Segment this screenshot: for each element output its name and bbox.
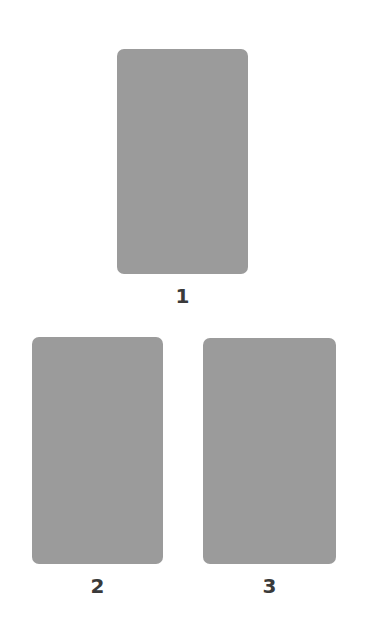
card-slot-label-3: 3: [203, 576, 336, 596]
card-layout-diagram: 1 2 3: [0, 0, 373, 644]
card-placeholder-3: [203, 338, 336, 564]
card-slot-label-1: 1: [117, 286, 248, 306]
card-slot-label-2: 2: [32, 576, 163, 596]
card-placeholder-1: [117, 49, 248, 274]
card-placeholder-2: [32, 337, 163, 564]
